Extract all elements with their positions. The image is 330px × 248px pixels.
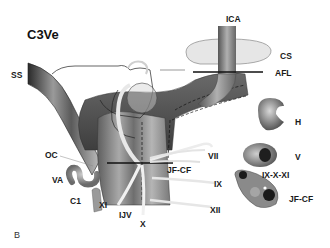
label-xi: XI bbox=[99, 201, 107, 210]
cross-section-v bbox=[243, 143, 277, 167]
label-jf-cf-section: JF-CF bbox=[289, 195, 313, 204]
label-x: X bbox=[140, 220, 146, 229]
label-oc: OC bbox=[45, 151, 58, 160]
label-ix-x-xi: IX-X-XI bbox=[262, 171, 289, 180]
label-ss: SS bbox=[11, 71, 22, 80]
label-ix: IX bbox=[214, 180, 222, 189]
cross-section-h bbox=[258, 98, 284, 130]
label-h: H bbox=[295, 118, 301, 127]
label-cs: CS bbox=[280, 52, 292, 61]
label-c1: C1 bbox=[70, 197, 81, 206]
label-jf-cf-main: JF-CF bbox=[167, 166, 191, 175]
panel-letter: B bbox=[14, 230, 20, 240]
figure-title: C3Ve bbox=[27, 27, 59, 42]
label-afl: AFL bbox=[275, 69, 292, 78]
label-ica: ICA bbox=[226, 15, 241, 24]
label-xii: XII bbox=[210, 206, 220, 215]
label-va: VA bbox=[52, 176, 63, 185]
label-vii: VII bbox=[208, 152, 218, 161]
label-ijv: IJV bbox=[119, 211, 132, 220]
label-v: V bbox=[295, 153, 301, 162]
